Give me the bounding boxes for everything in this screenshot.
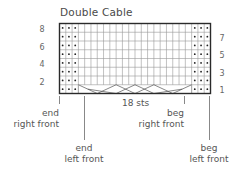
end-right-front-label: end right front	[0, 108, 59, 130]
end-left-front-line1: end	[54, 143, 114, 154]
end-left-front-tick	[84, 96, 85, 140]
end-left-front-line2: left front	[54, 154, 114, 165]
beg-left-front-label: beg left front	[179, 143, 239, 165]
beg-left-front-tick	[209, 96, 210, 140]
beg-right-front-label: beg right front	[124, 108, 184, 130]
end-right-front-line2: right front	[0, 119, 59, 130]
beg-right-front-line2: right front	[124, 119, 184, 130]
beg-right-front-line1: beg	[124, 108, 184, 119]
end-right-front-tick	[59, 96, 60, 104]
end-left-front-label: end left front	[54, 143, 114, 165]
end-right-front-line1: end	[0, 108, 59, 119]
beg-right-front-tick	[184, 96, 185, 104]
beg-left-front-line1: beg	[179, 143, 239, 154]
beg-left-front-line2: left front	[179, 154, 239, 165]
